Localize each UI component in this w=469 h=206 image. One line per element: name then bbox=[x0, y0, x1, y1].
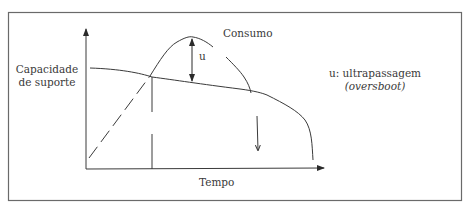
x-axis-label: Tempo bbox=[199, 176, 234, 189]
consumption-curve-dashed bbox=[89, 76, 150, 158]
capacity-label-line2: de suporte bbox=[14, 76, 80, 89]
overshoot-marker-label: u bbox=[199, 50, 206, 63]
decline-arrow bbox=[257, 116, 258, 150]
consumption-label: Consumo bbox=[223, 27, 273, 40]
capacity-label: Capacidade de suporte bbox=[14, 63, 80, 89]
capacity-curve bbox=[90, 68, 313, 160]
capacity-label-line1: Capacidade bbox=[14, 63, 80, 76]
overshoot-diagram: Capacidade de suporte Consumo u u: ultra… bbox=[0, 0, 469, 206]
x-axis bbox=[86, 168, 324, 169]
overshoot-legend: u: ultrapassagem (oversboot) bbox=[320, 67, 430, 93]
overshoot-legend-line2: (oversboot) bbox=[320, 80, 430, 93]
figure-frame bbox=[9, 13, 462, 201]
overshoot-legend-line1: u: ultrapassagem bbox=[320, 67, 430, 80]
